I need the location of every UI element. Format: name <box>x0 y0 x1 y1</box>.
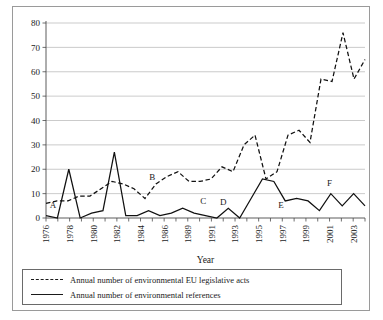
x-tick-label: 1989 <box>183 225 193 244</box>
annotation-label-a: A <box>50 200 57 210</box>
y-tick-label: 30 <box>31 140 41 150</box>
x-tick-label: 2001 <box>325 225 335 243</box>
series-line-eu-legislative-acts <box>46 33 365 204</box>
annotation-label-e: E <box>278 200 284 210</box>
x-tick-label: 1980 <box>89 225 99 244</box>
x-tick-label: 1986 <box>160 225 170 244</box>
y-tick-label: 60 <box>31 67 41 77</box>
y-axis-tick-labels: 01020304050607080 <box>31 18 41 223</box>
x-tick-label: 1976 <box>41 225 51 244</box>
annotation-label-c: C <box>200 196 206 206</box>
x-tick-label: 1999 <box>301 225 311 244</box>
y-tick-label: 20 <box>31 164 41 174</box>
legend-item-eu-legislative-acts: Annual number of environmental EU legisl… <box>31 273 249 287</box>
x-tick-label: 1993 <box>230 225 240 244</box>
y-tick-label: 40 <box>31 116 41 126</box>
y-tick-label: 0 <box>36 213 41 223</box>
y-tick-label: 70 <box>31 43 41 53</box>
y-tick-marks <box>43 23 47 218</box>
gridlines-group <box>46 23 365 194</box>
annotation-label-d: D <box>220 197 227 207</box>
x-tick-label: 1997 <box>278 225 288 244</box>
series-line-environmental-references <box>46 152 365 218</box>
y-tick-label: 80 <box>31 18 41 28</box>
legend-swatch-solid-icon <box>31 291 63 299</box>
x-axis-tick-labels: 1976197819801982198419861989199119931995… <box>41 225 358 244</box>
legend-label-environmental-references: Annual number of environmental reference… <box>70 288 221 302</box>
y-tick-label: 50 <box>31 91 41 101</box>
y-tick-label: 10 <box>31 189 41 199</box>
x-tick-label: 1978 <box>65 225 75 244</box>
figure-frame: 01020304050607080 1976197819801982198419… <box>12 6 370 311</box>
legend-label-eu-legislative-acts: Annual number of environmental EU legisl… <box>70 273 249 287</box>
chart-plot-area: 01020304050607080 1976197819801982198419… <box>13 7 371 269</box>
annotation-labels-group: ABCDEF <box>50 172 332 210</box>
line-chart: 01020304050607080 1976197819801982198419… <box>13 7 371 269</box>
x-tick-label: 1984 <box>136 225 146 244</box>
chart-legend: Annual number of environmental EU legisl… <box>22 269 342 305</box>
x-tick-label: 1982 <box>112 225 122 243</box>
x-tick-label: 1995 <box>254 225 264 244</box>
annotation-label-b: B <box>149 172 155 182</box>
x-tick-marks <box>46 218 365 222</box>
x-axis-title: Year <box>197 255 215 265</box>
x-tick-label: 1991 <box>207 225 217 243</box>
x-tick-label: 2003 <box>349 225 359 244</box>
legend-swatch-dashed-icon <box>31 276 63 284</box>
annotation-label-f: F <box>327 178 332 188</box>
legend-item-environmental-references: Annual number of environmental reference… <box>31 288 221 302</box>
